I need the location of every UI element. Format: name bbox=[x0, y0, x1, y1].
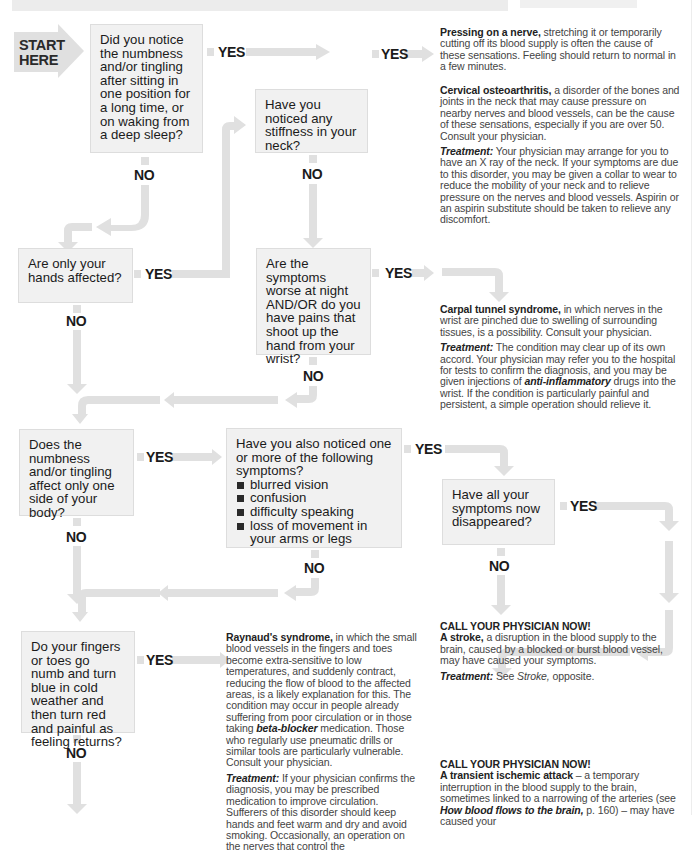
treatment-label: Treatment: bbox=[226, 772, 279, 784]
question-box-neck-stiffness[interactable]: Have you noticed any stiffness in your n… bbox=[255, 89, 368, 153]
no-label-fingers[interactable]: NO bbox=[66, 745, 86, 761]
symptom-item: difficulty speaking bbox=[236, 505, 392, 519]
question-box-symptoms-disappeared[interactable]: Have all your symptoms now disappeared? bbox=[442, 479, 555, 545]
treatment-body: opposite. bbox=[550, 670, 595, 682]
outcome-stroke: CALL YOUR PHYSICIAN NOW! A stroke, a dis… bbox=[440, 621, 680, 686]
outcome-title: Carpal tunnel syndrome, bbox=[440, 303, 561, 315]
outcome-pressing-nerve: Pressing on a nerve, stretching it or te… bbox=[440, 27, 680, 77]
outcome-title: A stroke, bbox=[440, 631, 484, 643]
outcome-cervical-osteoarthritis: Cervical osteoarthritis, a disorder of t… bbox=[440, 85, 680, 230]
yes-label-neck[interactable]: YES bbox=[381, 46, 408, 62]
outcome-emphasis: How blood flows to the brain, bbox=[440, 804, 584, 816]
question-box-worse-at-night[interactable]: Are the symptoms worse at night AND/OR d… bbox=[256, 248, 371, 355]
outcome-carpal-tunnel: Carpal tunnel syndrome, in which nerves … bbox=[440, 304, 680, 415]
treatment-body: See bbox=[493, 670, 517, 682]
yes-label-other-symptoms[interactable]: YES bbox=[415, 441, 442, 457]
outcome-transient-ischemic-attack: CALL YOUR PHYSICIAN NOW! A transient isc… bbox=[440, 759, 685, 831]
no-label-other-symptoms[interactable]: NO bbox=[304, 560, 324, 576]
question-box-other-symptoms[interactable]: Have you also noticed one or more of the… bbox=[226, 428, 402, 548]
symptom-item: confusion bbox=[236, 491, 392, 505]
outcome-title: Pressing on a nerve, bbox=[440, 26, 541, 38]
question-text: Have all your symptoms now disappeared? bbox=[452, 487, 540, 529]
treatment-label: Treatment: bbox=[440, 341, 493, 353]
outcome-title: Raynaud's syndrome, bbox=[226, 631, 333, 643]
question-text: Have you also noticed one or more of the… bbox=[236, 436, 391, 478]
yes-label-sitting[interactable]: YES bbox=[218, 44, 245, 60]
no-label-night[interactable]: NO bbox=[303, 368, 323, 384]
treatment-label: Treatment: bbox=[440, 670, 493, 682]
no-label-neck[interactable]: NO bbox=[302, 166, 322, 182]
question-text: Did you notice the numbness and/or tingl… bbox=[100, 32, 190, 142]
outcome-body: in which the small blood vessels in the … bbox=[226, 631, 417, 734]
no-label-disappeared[interactable]: NO bbox=[489, 558, 509, 574]
outcome-emphasis: beta-blocker bbox=[256, 722, 317, 734]
no-label-sitting[interactable]: NO bbox=[134, 167, 154, 183]
yes-label-hands[interactable]: YES bbox=[145, 266, 172, 282]
yes-label-fingers[interactable]: YES bbox=[146, 652, 173, 668]
treatment-body: Your physician may arrange for you to ha… bbox=[440, 145, 679, 225]
question-box-one-side[interactable]: Does the numbness and/or tingling affect… bbox=[19, 429, 134, 516]
question-text: Have you noticed any stiffness in your n… bbox=[265, 97, 356, 153]
question-text: Does the numbness and/or tingling affect… bbox=[29, 437, 115, 520]
yes-label-disappeared[interactable]: YES bbox=[570, 498, 597, 514]
outcome-title: Cervical osteoarthritis, bbox=[440, 84, 551, 96]
symptom-item: blurred vision bbox=[236, 478, 392, 492]
yes-label-one-side[interactable]: YES bbox=[146, 449, 173, 465]
outcome-title: A transient ischemic attack bbox=[440, 769, 573, 781]
outcome-raynauds: Raynaud's syndrome, in which the small b… bbox=[226, 632, 421, 854]
question-text: Are the symptoms worse at night AND/OR d… bbox=[266, 256, 361, 366]
no-label-one-side[interactable]: NO bbox=[66, 529, 86, 545]
no-label-hands[interactable]: NO bbox=[66, 313, 86, 329]
symptom-list: blurred vision confusion difficulty spea… bbox=[236, 478, 392, 546]
treatment-body: If your physician confirms the diagnosis… bbox=[226, 772, 415, 852]
start-here-label: START HERE bbox=[19, 38, 65, 68]
question-box-fingers-toes[interactable]: Do your fingers or toes go numb and turn… bbox=[21, 631, 135, 733]
question-text: Do your fingers or toes go numb and turn… bbox=[31, 639, 122, 749]
start-label-line1: START bbox=[19, 38, 65, 53]
question-box-sitting[interactable]: Did you notice the numbness and/or tingl… bbox=[90, 24, 203, 153]
question-text: Are only your hands affected? bbox=[28, 256, 122, 285]
yes-label-night[interactable]: YES bbox=[385, 265, 412, 281]
start-label-line2: HERE bbox=[19, 53, 65, 68]
question-box-hands-only[interactable]: Are only your hands affected? bbox=[18, 248, 133, 303]
treatment-label: Treatment: bbox=[440, 145, 493, 157]
symptom-item: loss of movement in your arms or legs bbox=[236, 519, 392, 546]
treatment-emphasis: anti-inflammatory bbox=[524, 375, 610, 387]
treatment-emphasis: Stroke, bbox=[517, 670, 550, 682]
